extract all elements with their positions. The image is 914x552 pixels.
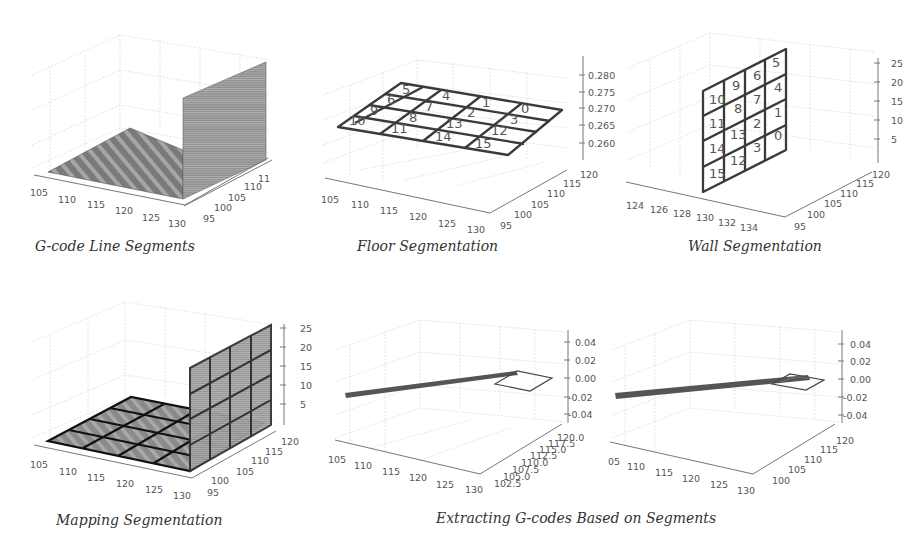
svg-text:125: 125 xyxy=(145,484,163,495)
svg-text:3: 3 xyxy=(753,140,761,155)
caption-floor-segmentation: Floor Segmentation xyxy=(357,238,498,254)
extracted-segment xyxy=(345,371,552,398)
extracted-segment xyxy=(615,374,824,399)
svg-text:100: 100 xyxy=(807,209,825,220)
caption-gcode-line-segments: G-code Line Segments xyxy=(35,238,195,254)
svg-text:105: 105 xyxy=(30,459,48,470)
svg-text:128: 128 xyxy=(673,208,691,219)
caption-extracting-gcodes: Extracting G-codes Based on Segments xyxy=(436,510,716,526)
svg-text:130: 130 xyxy=(173,490,191,501)
svg-text:6: 6 xyxy=(753,68,761,83)
svg-text:0: 0 xyxy=(521,101,529,116)
panel-extract-gcodes-1: 0.04 0.02 0.00 -0.02 -0.04 105 110 115 1… xyxy=(310,320,610,500)
svg-text:11: 11 xyxy=(709,116,726,131)
y-axis-ticks: 95 100 105 110 115 120 xyxy=(794,169,890,232)
z-axis-ticks: 0.04 0.02 0.00 -0.02 -0.04 xyxy=(564,337,596,420)
svg-text:7: 7 xyxy=(753,92,761,107)
x-axis-ticks: 105 110 115 120 125 130 xyxy=(321,194,485,235)
svg-text:105: 105 xyxy=(531,199,549,210)
svg-text:-0.04: -0.04 xyxy=(843,410,868,421)
svg-text:120: 120 xyxy=(115,205,133,216)
svg-text:1: 1 xyxy=(482,95,490,110)
svg-text:120: 120 xyxy=(836,435,854,446)
svg-text:95: 95 xyxy=(207,487,219,498)
svg-text:125: 125 xyxy=(142,212,160,223)
svg-text:5: 5 xyxy=(300,399,306,410)
svg-text:105: 105 xyxy=(824,198,842,209)
svg-text:100: 100 xyxy=(214,202,232,213)
svg-text:130: 130 xyxy=(465,484,483,495)
svg-text:7: 7 xyxy=(425,99,433,114)
plot-floor-segmentation: 0.280 0.275 0.270 0.265 0.260 5 4 1 0 6 … xyxy=(305,0,610,230)
svg-text:-0.02: -0.02 xyxy=(843,392,868,403)
svg-text:13: 13 xyxy=(730,127,747,142)
mapped-wall-grid xyxy=(190,325,271,471)
svg-text:0.00: 0.00 xyxy=(850,374,871,385)
svg-text:8: 8 xyxy=(734,101,742,116)
svg-text:9: 9 xyxy=(370,103,378,118)
panel-gcode-line-segments: 105 110 115 120 125 130 95 100 105 110 1… xyxy=(0,0,305,260)
z-axis-ticks: 0.04 0.02 0.00 -0.02 -0.04 xyxy=(838,339,871,421)
svg-text:115: 115 xyxy=(382,466,400,477)
z-axis-ticks: 25 20 15 10 5 xyxy=(280,323,312,410)
svg-text:0.04: 0.04 xyxy=(850,339,871,350)
svg-text:15: 15 xyxy=(709,166,726,181)
svg-text:120: 120 xyxy=(281,436,299,447)
svg-text:110: 110 xyxy=(804,454,822,465)
svg-text:130: 130 xyxy=(737,485,755,496)
svg-text:115: 115 xyxy=(87,472,105,483)
svg-text:105: 105 xyxy=(30,187,48,198)
svg-text:115: 115 xyxy=(380,205,398,216)
svg-text:14: 14 xyxy=(435,129,452,144)
svg-text:125: 125 xyxy=(436,479,454,490)
svg-text:100: 100 xyxy=(772,475,790,486)
svg-text:3: 3 xyxy=(510,112,518,127)
svg-text:8: 8 xyxy=(409,110,417,125)
svg-text:95: 95 xyxy=(500,220,512,231)
svg-text:115: 115 xyxy=(265,446,283,457)
svg-text:4: 4 xyxy=(774,80,782,95)
svg-text:125: 125 xyxy=(710,479,728,490)
svg-text:115: 115 xyxy=(563,178,581,189)
x-axis-ticks: 05 110 115 120 125 130 xyxy=(608,456,755,496)
svg-text:12: 12 xyxy=(491,123,508,138)
svg-text:15: 15 xyxy=(475,136,492,151)
svg-text:11: 11 xyxy=(258,173,270,184)
svg-text:130: 130 xyxy=(168,218,186,229)
svg-text:12: 12 xyxy=(730,153,747,168)
svg-text:132: 132 xyxy=(718,217,736,228)
svg-text:115: 115 xyxy=(87,199,105,210)
svg-text:20: 20 xyxy=(891,77,903,88)
svg-text:120: 120 xyxy=(409,211,427,222)
x-axis-ticks: 124 126 128 130 132 134 xyxy=(626,200,758,233)
svg-text:6: 6 xyxy=(387,92,395,107)
svg-text:126: 126 xyxy=(650,204,668,215)
svg-text:0.02: 0.02 xyxy=(850,356,871,367)
svg-text:10: 10 xyxy=(709,92,726,107)
plot-wall-segmentation: 25 20 15 10 5 10 9 6 5 11 8 7 4 14 13 xyxy=(610,0,914,230)
svg-text:110: 110 xyxy=(351,199,369,210)
svg-text:110: 110 xyxy=(840,188,858,199)
svg-text:110: 110 xyxy=(547,188,565,199)
svg-text:10: 10 xyxy=(349,113,366,128)
svg-text:110: 110 xyxy=(59,466,77,477)
y-axis-ticks: 95 100 105 110 115 120 xyxy=(500,169,598,231)
y-axis-ticks: 100 105 110 115 120 xyxy=(772,435,854,486)
svg-text:5: 5 xyxy=(891,134,897,145)
plot-extract-gcodes-2: 0.04 0.02 0.00 -0.02 -0.04 05 110 115 12… xyxy=(600,320,914,500)
svg-text:2: 2 xyxy=(467,105,475,120)
svg-text:25: 25 xyxy=(891,58,903,69)
svg-text:120: 120 xyxy=(872,169,890,180)
svg-text:95: 95 xyxy=(794,221,806,232)
svg-text:100: 100 xyxy=(514,209,532,220)
caption-mapping-segmentation: Mapping Segmentation xyxy=(56,512,222,528)
plot-gcode-line-segments: 105 110 115 120 125 130 95 100 105 110 1… xyxy=(0,0,305,230)
svg-text:9: 9 xyxy=(732,78,740,93)
svg-text:105: 105 xyxy=(228,192,246,203)
svg-text:110: 110 xyxy=(354,460,372,471)
svg-text:5: 5 xyxy=(772,55,780,70)
svg-text:-0.04: -0.04 xyxy=(568,409,593,420)
svg-text:105: 105 xyxy=(788,464,806,475)
svg-text:120: 120 xyxy=(409,472,427,483)
svg-text:134: 134 xyxy=(740,222,758,233)
